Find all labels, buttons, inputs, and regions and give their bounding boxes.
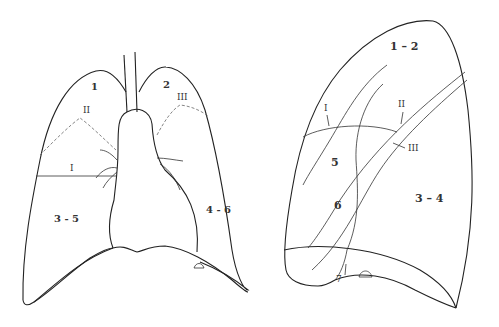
leader-II bbox=[401, 112, 403, 124]
label-segments-3-4: 3 – 4 bbox=[415, 193, 443, 204]
label-segment-2: 2 bbox=[163, 80, 170, 90]
label-lateral-fissure-II: II bbox=[398, 100, 405, 109]
lateral-lung-drawing bbox=[0, 0, 499, 327]
lateral-curve-b bbox=[335, 84, 383, 280]
label-segments-4-6: 4 - 6 bbox=[206, 205, 231, 215]
leader-7 bbox=[345, 264, 346, 275]
lateral-lung-outline bbox=[285, 21, 433, 286]
lung-segments-figure: · · · · · · · · · · · · · · · bbox=[0, 0, 499, 327]
label-fissure-II: II bbox=[83, 106, 90, 115]
leader-I bbox=[327, 115, 329, 126]
label-segment-1: 1 bbox=[91, 82, 98, 92]
label-segment-6: 6 bbox=[334, 200, 342, 211]
lateral-diaphragm-lower bbox=[335, 275, 456, 308]
label-fissure-III: III bbox=[177, 93, 188, 102]
label-lateral-fissure-III: III bbox=[408, 144, 419, 153]
lateral-curve-a bbox=[303, 65, 387, 185]
lateral-fissure-III bbox=[312, 80, 467, 270]
lateral-gastric-bubble-mark bbox=[359, 271, 372, 277]
lateral-posterior-border bbox=[433, 21, 472, 308]
label-segment-5: 5 bbox=[331, 157, 339, 168]
label-lateral-fissure-I: I bbox=[324, 104, 328, 113]
label-fissure-I: I bbox=[70, 164, 74, 173]
label-segment-7: 7 bbox=[336, 275, 342, 284]
label-segments-1-2: 1 – 2 bbox=[390, 41, 418, 52]
label-segments-3-5: 3 - 5 bbox=[54, 214, 79, 224]
leader-III bbox=[393, 143, 405, 148]
lateral-fissure-I bbox=[303, 126, 397, 137]
